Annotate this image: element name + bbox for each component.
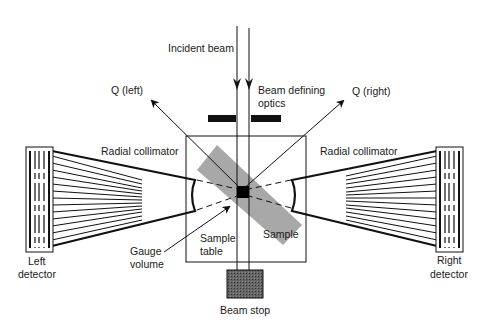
beam-defining-optics-label-2: optics: [258, 97, 285, 109]
sample-label: Sample: [263, 228, 299, 240]
diffraction-setup-diagram: Incident beam Beam defining optics Q (le…: [0, 0, 489, 326]
q-left-label: Q (left): [111, 84, 143, 96]
beam-defining-optics-label-1: Beam defining: [258, 84, 325, 96]
beam-slit-right: [251, 115, 281, 122]
gauge-volume-label-1: Gauge: [130, 245, 162, 257]
left-detector-label-2: detector: [18, 268, 56, 280]
radial-collimator-left-label: Radial collimator: [101, 145, 179, 157]
incident-beam-label: Incident beam: [168, 42, 234, 54]
left-radial-collimator: [52, 151, 195, 246]
right-detector: [436, 147, 463, 252]
sample-table-label-2: table: [200, 245, 223, 257]
right-radial-collimator: [292, 151, 437, 246]
beam-stop: [227, 270, 263, 298]
right-detector-label-1: Right: [437, 254, 462, 266]
gauge-volume: [237, 186, 249, 198]
gauge-volume-label-2: volume: [130, 258, 164, 270]
right-detector-label-2: detector: [430, 268, 468, 280]
incident-beam: [233, 26, 253, 272]
sample-table-label-1: Sample: [200, 232, 236, 244]
beam-stop-label: Beam stop: [220, 304, 270, 316]
left-detector-label-1: Left: [28, 255, 46, 267]
beam-slit-left: [208, 115, 236, 122]
radial-collimator-right-label: Radial collimator: [320, 145, 398, 157]
q-right-label: Q (right): [352, 85, 391, 97]
left-detector: [26, 147, 53, 252]
